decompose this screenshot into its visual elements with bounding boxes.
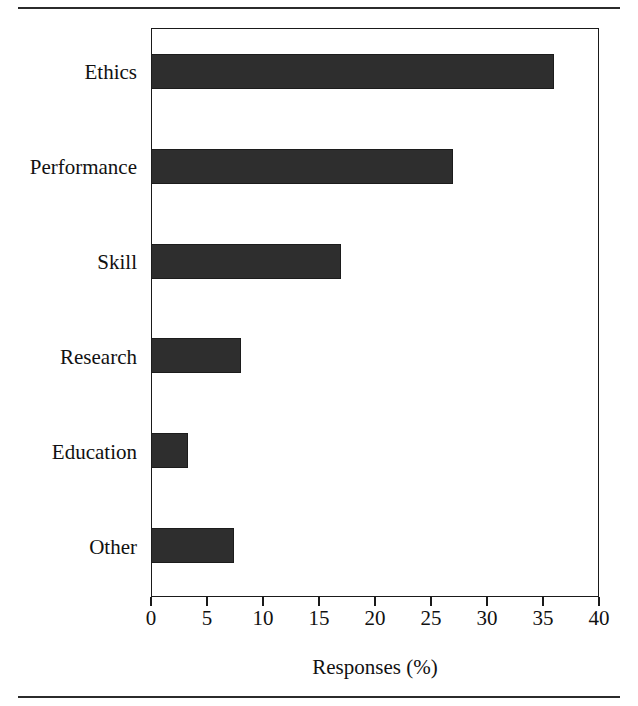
x-tick-label: 10 bbox=[253, 608, 274, 629]
bar bbox=[151, 244, 341, 279]
x-tick-label: 15 bbox=[309, 608, 330, 629]
x-axis-title-text: Responses (%) bbox=[312, 655, 437, 679]
x-tick-label: 40 bbox=[589, 608, 610, 629]
x-tick-mark bbox=[262, 597, 263, 606]
y-axis-tick-label: Skill bbox=[0, 250, 145, 275]
bar-row bbox=[151, 338, 599, 373]
x-tick-label: 0 bbox=[146, 608, 157, 629]
y-axis-tick-label: Ethics bbox=[0, 60, 145, 85]
bar-row bbox=[151, 54, 599, 89]
bar bbox=[151, 149, 453, 184]
plot-area bbox=[151, 28, 599, 597]
x-tick-mark bbox=[318, 597, 319, 606]
bar-row bbox=[151, 528, 599, 563]
x-axis-title: Responses (%) bbox=[0, 655, 638, 680]
x-tick-label: 25 bbox=[421, 608, 442, 629]
x-tick-label: 5 bbox=[202, 608, 213, 629]
figure-container: EthicsPerformanceSkillResearchEducationO… bbox=[0, 0, 638, 706]
x-tick-mark bbox=[430, 597, 431, 606]
x-tick-label: 30 bbox=[477, 608, 498, 629]
y-axis-tick-label: Performance bbox=[0, 155, 145, 180]
bar-row bbox=[151, 433, 599, 468]
bar-row bbox=[151, 149, 599, 184]
top-horizontal-rule bbox=[18, 7, 620, 9]
bar bbox=[151, 338, 241, 373]
x-tick-mark bbox=[150, 597, 151, 606]
x-tick-mark bbox=[542, 597, 543, 606]
x-tick-mark bbox=[206, 597, 207, 606]
x-tick-label: 20 bbox=[365, 608, 386, 629]
bar bbox=[151, 433, 188, 468]
x-tick-mark bbox=[598, 597, 599, 606]
y-axis-tick-label: Education bbox=[0, 440, 145, 465]
y-axis-tick-label: Other bbox=[0, 535, 145, 560]
x-tick-mark bbox=[486, 597, 487, 606]
y-axis-tick-label: Research bbox=[0, 345, 145, 370]
bar bbox=[151, 528, 234, 563]
bar-row bbox=[151, 244, 599, 279]
x-tick-mark bbox=[374, 597, 375, 606]
x-tick-label: 35 bbox=[533, 608, 554, 629]
bottom-horizontal-rule bbox=[18, 696, 620, 698]
bar bbox=[151, 54, 554, 89]
